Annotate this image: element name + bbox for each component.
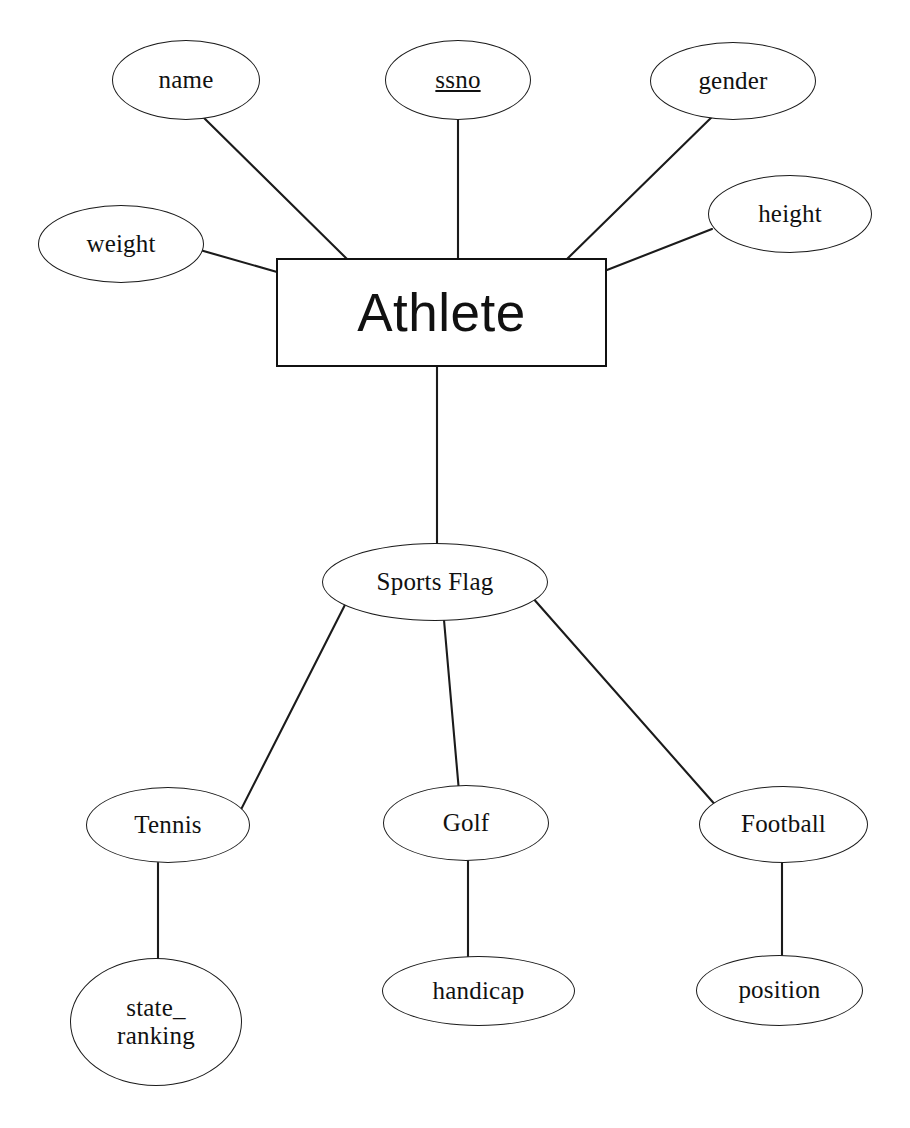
attribute-name-label: name bbox=[159, 67, 214, 94]
attribute-gender[interactable]: gender bbox=[650, 42, 816, 120]
attribute-state-ranking[interactable]: state_ ranking bbox=[70, 958, 242, 1086]
attribute-position[interactable]: position bbox=[696, 955, 863, 1026]
attribute-name[interactable]: name bbox=[112, 40, 260, 120]
attribute-state-ranking-label: state_ ranking bbox=[117, 994, 195, 1050]
edge-height-athlete bbox=[607, 229, 712, 270]
entity-athlete[interactable]: Athlete bbox=[276, 258, 607, 367]
attribute-position-label: position bbox=[738, 977, 820, 1004]
attribute-height[interactable]: height bbox=[708, 175, 872, 253]
edge-name-athlete bbox=[200, 114, 347, 259]
subtype-tennis-label: Tennis bbox=[134, 812, 202, 839]
edge-weight-athlete bbox=[200, 250, 277, 272]
subtype-football[interactable]: Football bbox=[699, 786, 868, 863]
subtype-golf[interactable]: Golf bbox=[383, 785, 549, 861]
subtype-football-label: Football bbox=[741, 811, 826, 838]
attribute-handicap-label: handicap bbox=[433, 978, 525, 1005]
edge-gender-athlete bbox=[566, 112, 717, 260]
discriminator-sports-flag[interactable]: Sports Flag bbox=[322, 543, 548, 621]
attribute-ssno-label: ssno bbox=[435, 67, 480, 94]
attribute-gender-label: gender bbox=[698, 68, 767, 95]
attribute-handicap[interactable]: handicap bbox=[382, 956, 575, 1026]
attribute-weight-label: weight bbox=[86, 231, 155, 258]
discriminator-sports-flag-label: Sports Flag bbox=[377, 569, 494, 596]
er-diagram-canvas: name ssno gender weight height Athlete S… bbox=[0, 0, 910, 1128]
subtype-tennis[interactable]: Tennis bbox=[86, 787, 250, 863]
entity-athlete-label: Athlete bbox=[357, 282, 526, 343]
attribute-weight[interactable]: weight bbox=[38, 205, 204, 283]
attribute-height-label: height bbox=[758, 201, 822, 228]
edge-sportsflag-football bbox=[524, 588, 733, 825]
subtype-golf-label: Golf bbox=[443, 810, 490, 837]
attribute-ssno[interactable]: ssno bbox=[385, 40, 531, 120]
